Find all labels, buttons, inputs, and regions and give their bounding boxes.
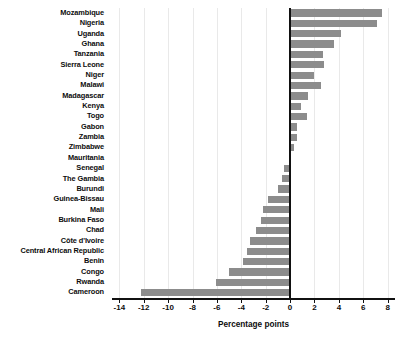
tick-label: -2 — [262, 303, 269, 312]
category-label: Zimbabwe — [0, 142, 108, 152]
tick-label: 2 — [312, 303, 316, 312]
bars-group — [112, 8, 395, 298]
table-row — [112, 70, 395, 80]
table-row — [112, 81, 395, 91]
category-label: Niger — [0, 70, 108, 80]
category-label: Madagascar — [0, 91, 108, 101]
table-row — [112, 194, 395, 204]
bar — [250, 237, 290, 244]
bar-chart: MozambiqueNigeriaUgandaGhanaTanzaniaSier… — [0, 0, 399, 341]
category-label: Malawi — [0, 80, 108, 90]
bar — [290, 103, 301, 110]
category-label: Rwanda — [0, 277, 108, 287]
table-row — [112, 257, 395, 267]
bar — [290, 51, 323, 58]
bar — [290, 134, 297, 141]
table-row — [112, 153, 395, 163]
bar — [247, 248, 290, 255]
table-row — [112, 184, 395, 194]
table-row — [112, 236, 395, 246]
category-label: Togo — [0, 111, 108, 121]
plot-area: MozambiqueNigeriaUgandaGhanaTanzaniaSier… — [0, 0, 399, 341]
tick-label: 8 — [385, 303, 389, 312]
bar — [290, 20, 377, 27]
bar — [216, 279, 290, 286]
category-label: Congo — [0, 267, 108, 277]
category-label: Ghana — [0, 39, 108, 49]
category-label: Cameroon — [0, 287, 108, 297]
category-label: Chad — [0, 225, 108, 235]
bar — [290, 113, 307, 120]
bar — [268, 196, 290, 203]
table-row — [112, 226, 395, 236]
tick-label: -12 — [138, 303, 150, 312]
table-row — [112, 205, 395, 215]
table-row — [112, 91, 395, 101]
tick-label: -10 — [162, 303, 174, 312]
table-row — [112, 246, 395, 256]
bar — [290, 82, 320, 89]
bar — [141, 289, 290, 296]
table-row — [112, 143, 395, 153]
table-row — [112, 18, 395, 28]
zero-reference-line — [289, 8, 291, 298]
table-row — [112, 29, 395, 39]
table-row — [112, 101, 395, 111]
tick-label: 4 — [337, 303, 341, 312]
table-row — [112, 163, 395, 173]
table-row — [112, 8, 395, 18]
bar — [261, 217, 290, 224]
x-axis-ticks: -14-12-10-8-6-4-202468 — [112, 300, 395, 314]
category-label: Mali — [0, 205, 108, 215]
tick-label: -6 — [213, 303, 220, 312]
table-row — [112, 174, 395, 184]
tick-label: -8 — [189, 303, 196, 312]
category-label: Burkina Faso — [0, 215, 108, 225]
bar — [290, 61, 324, 68]
category-label: Zambia — [0, 132, 108, 142]
table-row — [112, 288, 395, 298]
tick-label: 6 — [361, 303, 365, 312]
bar — [290, 123, 297, 130]
bar — [290, 9, 381, 16]
bar — [290, 72, 314, 79]
category-label: Burundi — [0, 184, 108, 194]
table-row — [112, 49, 395, 59]
table-row — [112, 122, 395, 132]
tick-label: -14 — [114, 303, 126, 312]
table-row — [112, 132, 395, 142]
bar — [290, 92, 308, 99]
category-label: Gabon — [0, 122, 108, 132]
table-row — [112, 215, 395, 225]
table-row — [112, 39, 395, 49]
table-row — [112, 267, 395, 277]
x-axis-title: Percentage points — [112, 320, 395, 329]
plot-panel — [112, 8, 395, 298]
bar — [229, 268, 290, 275]
table-row — [112, 60, 395, 70]
category-label: Benin — [0, 256, 108, 266]
category-label: Senegal — [0, 163, 108, 173]
category-label: Uganda — [0, 29, 108, 39]
table-row — [112, 112, 395, 122]
category-label: Côte d'Ivoire — [0, 236, 108, 246]
category-label: The Gambia — [0, 174, 108, 184]
category-label: Mozambique — [0, 8, 108, 18]
bar — [243, 258, 291, 265]
table-row — [112, 277, 395, 287]
tick-label: -4 — [238, 303, 245, 312]
bar — [290, 40, 334, 47]
bar — [278, 185, 290, 192]
category-label: Tanzania — [0, 49, 108, 59]
category-axis-labels: MozambiqueNigeriaUgandaGhanaTanzaniaSier… — [0, 8, 108, 298]
category-label: Guinea-Bissau — [0, 194, 108, 204]
category-label: Mauritania — [0, 153, 108, 163]
bar — [256, 227, 290, 234]
category-label: Central African Republic — [0, 246, 108, 256]
category-label: Kenya — [0, 101, 108, 111]
bar — [290, 30, 341, 37]
category-label: Nigeria — [0, 18, 108, 28]
tick-label: 0 — [288, 303, 292, 312]
category-label: Sierra Leone — [0, 60, 108, 70]
bar — [263, 206, 290, 213]
